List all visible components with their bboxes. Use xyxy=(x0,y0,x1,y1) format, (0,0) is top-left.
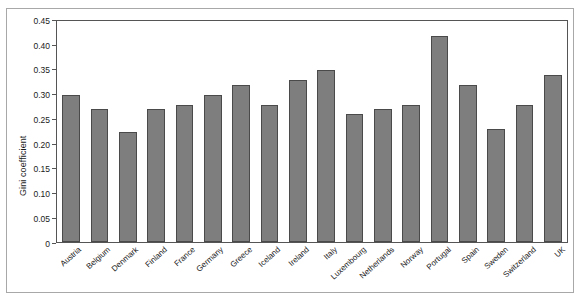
x-axis-tick-label-text: Italy xyxy=(322,245,339,262)
chart-figure: Gini coefficient 0.450.400.350.300.250.2… xyxy=(0,0,582,303)
bar xyxy=(261,105,279,243)
bar xyxy=(289,80,307,242)
bar xyxy=(232,85,250,242)
bar xyxy=(62,95,80,242)
bar-slot xyxy=(57,21,85,242)
bar xyxy=(317,70,335,242)
bar-slot xyxy=(397,21,425,242)
y-axis-tick: 0.45 xyxy=(33,14,56,26)
bar-slot xyxy=(539,21,567,242)
x-axis-tick-label-text: Belgium xyxy=(84,245,112,271)
x-axis-ticks: AustriaBelgiumDenmarkFinlandFranceGerman… xyxy=(56,243,568,303)
bar-slot xyxy=(284,21,312,242)
bar xyxy=(147,109,165,242)
y-axis-tick-label: 0.35 xyxy=(33,64,50,76)
y-axis-tick: 0.35 xyxy=(33,64,56,76)
y-axis-tick: 0.40 xyxy=(33,39,56,51)
x-axis-tick-label-text: UK xyxy=(552,245,566,259)
bar-slot xyxy=(340,21,368,242)
y-axis-tick-label: 0.10 xyxy=(33,188,50,200)
y-axis-tick-label: 0.40 xyxy=(33,40,50,52)
y-axis-tick: 0.20 xyxy=(33,138,56,150)
bar-slot xyxy=(425,21,453,242)
bar xyxy=(176,105,194,243)
bar xyxy=(487,129,505,242)
bar-slot xyxy=(85,21,113,242)
bars-layer xyxy=(57,21,567,242)
x-axis-tick-label-text: France xyxy=(172,245,197,268)
y-axis-tick: 0.30 xyxy=(33,88,56,100)
y-axis-tick-label: 0 xyxy=(45,238,50,250)
y-axis-tick-label: 0.20 xyxy=(33,139,50,151)
bar-slot xyxy=(454,21,482,242)
bar-slot xyxy=(312,21,340,242)
y-axis-tick-label: 0.25 xyxy=(33,114,50,126)
y-axis-tick: 0 xyxy=(45,237,56,249)
bar xyxy=(431,36,449,242)
bar-slot xyxy=(227,21,255,242)
x-axis-tick-label-text: Iceland xyxy=(257,245,282,269)
bar-slot xyxy=(114,21,142,242)
y-axis-tick-label: 0.45 xyxy=(33,15,50,27)
bar-slot xyxy=(142,21,170,242)
bar xyxy=(459,85,477,242)
bar xyxy=(204,95,222,242)
bar-slot xyxy=(369,21,397,242)
bar-slot xyxy=(510,21,538,242)
bar xyxy=(346,114,364,242)
bar xyxy=(516,105,534,243)
y-axis-tick: 0.15 xyxy=(33,163,56,175)
x-axis-tick-label-text: Finland xyxy=(143,245,169,269)
bar xyxy=(91,109,109,242)
bar xyxy=(544,75,562,242)
x-axis-tick-label-text: Greece xyxy=(228,245,254,269)
y-axis-tick-label: 0.05 xyxy=(33,213,50,225)
y-axis-tick-label: 0.30 xyxy=(33,89,50,101)
x-axis-tick-label-text: Ireland xyxy=(287,245,311,268)
bar-slot xyxy=(199,21,227,242)
bar-slot xyxy=(482,21,510,242)
y-axis-tick: 0.10 xyxy=(33,187,56,199)
y-axis-tick: 0.05 xyxy=(33,212,56,224)
x-axis-tick-label-text: Austria xyxy=(59,245,84,268)
x-axis-tick-label-text: Norway xyxy=(398,245,424,270)
bar-slot xyxy=(255,21,283,242)
x-axis-tick-label-text: Portugal xyxy=(425,245,453,272)
y-axis-tick: 0.25 xyxy=(33,113,56,125)
y-axis-ticks: 0.450.400.350.300.250.200.150.100.050 xyxy=(0,0,56,303)
plot-area xyxy=(56,20,568,243)
x-axis-tick-label-text: Spain xyxy=(460,245,481,265)
bar-slot xyxy=(170,21,198,242)
y-axis-tick-label: 0.15 xyxy=(33,163,50,175)
